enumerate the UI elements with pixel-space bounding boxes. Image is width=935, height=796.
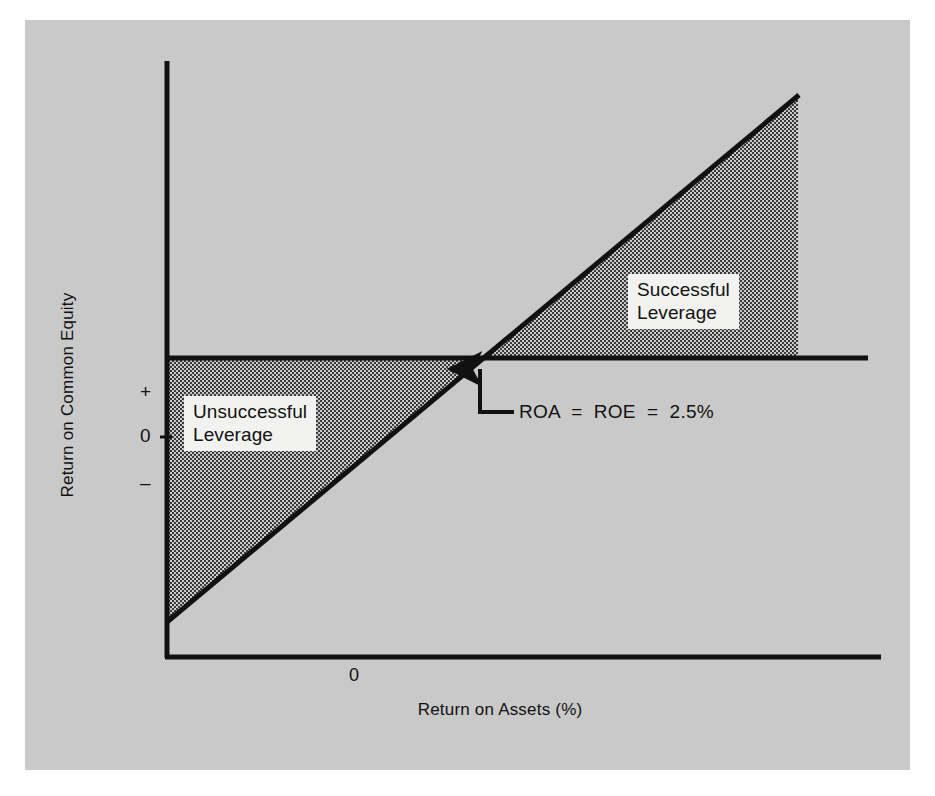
region-label-unsuccessful-leverage: Unsuccessful Leverage <box>184 396 316 451</box>
region-label-unsuccessful-line2: Leverage <box>193 423 307 446</box>
region-label-unsuccessful-line1: Unsuccessful <box>193 400 307 423</box>
region-label-successful-line1: Successful <box>637 278 730 301</box>
breakeven-annotation-text: ROA = ROE = 2.5% <box>519 401 714 423</box>
y-axis-tick-plus: + <box>140 381 151 403</box>
y-axis-tick-zero: 0 <box>140 425 151 447</box>
region-label-successful-line2: Leverage <box>637 301 730 324</box>
x-axis-title: Return on Assets (%) <box>320 700 680 720</box>
y-axis-tick-minus: – <box>140 472 151 494</box>
region-label-successful-leverage: Successful Leverage <box>628 274 739 329</box>
annotation-leader-line <box>480 369 514 412</box>
y-axis-title: Return on Common Equity <box>58 265 78 525</box>
figure-container: Return on Common Equity Return on Assets… <box>0 0 935 796</box>
x-axis-tick-zero: 0 <box>349 665 359 686</box>
